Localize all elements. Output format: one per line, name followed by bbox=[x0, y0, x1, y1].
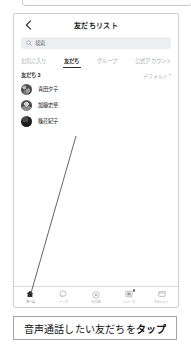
nav-item-wallet[interactable]: ウォレット bbox=[145, 290, 178, 304]
caption-text-emphasis: タップ bbox=[136, 324, 167, 335]
caption-text-before: 音声通話したい友だちを bbox=[24, 324, 136, 335]
top-cropped-element bbox=[22, 0, 191, 6]
search-icon bbox=[26, 40, 32, 46]
phone-screenshot-card: 友だちリスト お気に入り 友だち グループ 公式アカウント 友だち 3 デフォル… bbox=[13, 13, 179, 308]
sort-label: デフォルト bbox=[143, 72, 168, 79]
nav-item-home[interactable]: ホーム bbox=[14, 290, 47, 304]
search-bar[interactable] bbox=[21, 37, 171, 49]
search-section bbox=[14, 36, 178, 53]
tab-bar: お気に入り 友だち グループ 公式アカウント bbox=[14, 53, 178, 68]
home-icon bbox=[26, 290, 34, 298]
avatar bbox=[21, 100, 32, 111]
caption-text: 音声通話したい友だちをタップ bbox=[24, 321, 167, 336]
friend-list: 青田夕子 加藤史華 篠花紀子 bbox=[14, 81, 178, 129]
bottom-navigation: ホーム トーク VOOM bbox=[14, 286, 178, 307]
chevron-left-icon bbox=[25, 20, 32, 30]
friends-count-label: 友だち 3 bbox=[21, 71, 41, 79]
news-icon bbox=[125, 290, 133, 298]
wallet-icon bbox=[158, 290, 166, 298]
app-header: 友だちリスト bbox=[14, 14, 178, 36]
nav-label: ウォレット bbox=[154, 299, 169, 304]
tab-friends[interactable]: 友だち bbox=[64, 57, 79, 68]
nav-label: ホーム bbox=[26, 299, 35, 304]
friend-name: 加藤史華 bbox=[38, 101, 58, 109]
back-button[interactable] bbox=[18, 15, 38, 35]
nav-item-news[interactable]: ニュース bbox=[112, 290, 145, 304]
caption-box: 音声通話したい友だちをタップ bbox=[13, 316, 177, 340]
list-item[interactable]: 青田夕子 bbox=[21, 81, 171, 97]
tab-favorites[interactable]: お気に入り bbox=[21, 57, 47, 68]
chat-icon bbox=[59, 290, 67, 298]
nav-label: ニュース bbox=[123, 299, 135, 304]
status-badge bbox=[133, 289, 136, 292]
sort-selector[interactable]: デフォルト ▾ bbox=[143, 72, 171, 79]
search-input[interactable] bbox=[35, 40, 166, 46]
nav-item-talk[interactable]: トーク bbox=[47, 290, 80, 304]
friend-name: 青田夕子 bbox=[38, 85, 58, 93]
nav-item-voom[interactable]: VOOM bbox=[80, 291, 113, 304]
list-item[interactable]: 篠花紀子 bbox=[21, 113, 171, 129]
avatar bbox=[21, 116, 32, 127]
play-icon bbox=[92, 291, 100, 299]
page-title: 友だちリスト bbox=[14, 20, 178, 30]
chevron-down-icon: ▾ bbox=[169, 73, 171, 77]
avatar bbox=[21, 84, 32, 95]
nav-label: トーク bbox=[59, 299, 68, 304]
tab-official-accounts[interactable]: 公式アカウント bbox=[135, 57, 171, 68]
list-item[interactable]: 加藤史華 bbox=[21, 97, 171, 113]
tab-groups[interactable]: グループ bbox=[97, 57, 117, 68]
friends-section-header: 友だち 3 デフォルト ▾ bbox=[14, 68, 178, 81]
nav-label: VOOM bbox=[91, 300, 100, 304]
friend-name: 篠花紀子 bbox=[38, 117, 58, 125]
